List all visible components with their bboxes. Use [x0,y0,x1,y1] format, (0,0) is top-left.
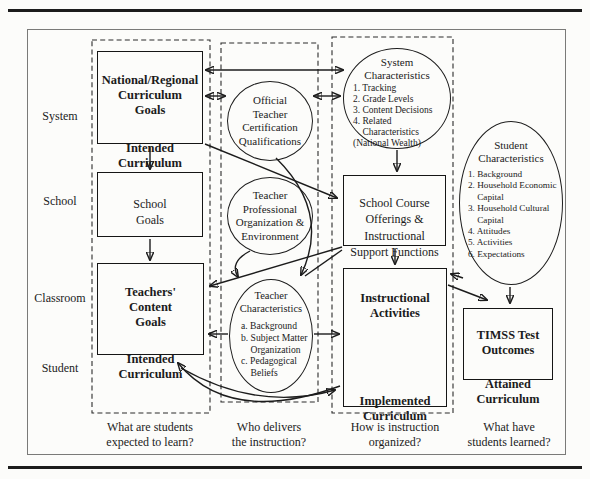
ellipse-teacher-char-title: Teacher Characteristics [230,290,312,315]
box-timss-subtitle: Attained Curriculum [464,377,552,407]
bottom-rule [8,466,582,469]
box-instructional-title: Instructional Activities [344,291,446,321]
ellipse-system-char-items: 1. Tracking 2. Grade Levels 3. Content D… [353,83,450,149]
ellipse-official-title: Official Teacher Certification Qualifica… [228,94,312,148]
box-timss-title: TIMSS Test Outcomes [464,328,552,358]
caption-what-learned: What have students learned? [454,420,564,450]
caption-who-delivers: Who delivers the instruction? [214,420,324,450]
box-timss-test-outcomes: TIMSS Test Outcomes Attained Curriculum [463,308,553,380]
ellipse-teacher-prof-title: Teacher Professional Organization & Envi… [228,189,312,243]
ellipse-teacher-characteristics: Teacher Characteristics a. Background b.… [229,279,313,393]
box-instructional-activities: Instructional Activities Implemented Cur… [343,268,447,407]
box-school-goals-title: School Goals [98,196,202,228]
box-national-title: National/Regional Curriculum Goals [98,73,202,118]
box-school-course-offerings: School Course Offerings & Instructional … [343,175,446,246]
ellipse-system-characteristics: System Characteristics 1. Tracking 2. Gr… [343,48,451,149]
ellipse-student-characteristics: Student Characteristics 1. Background 2.… [459,121,563,285]
box-teachers-subtitle: Intended Curriculum [98,352,203,382]
box-national-curriculum-goals: National/Regional Curriculum Goals Inten… [97,51,203,144]
caption-how-organized: How is instruction organized? [340,420,450,450]
box-school-goals: School Goals [97,172,203,237]
row-label-student: Student [26,361,94,375]
ellipse-system-char-title: System Characteristics [344,56,450,81]
ellipse-student-char-items: 1. Background 2. Household Economic Capi… [468,169,562,260]
ellipse-teacher-char-items: a. Background b. Subject Matter Organiza… [241,320,312,379]
box-teachers-title: Teachers' Content Goals [98,285,203,330]
figure-page: System School Classroom Student National… [0,0,590,479]
ellipse-teacher-professional-org: Teacher Professional Organization & Envi… [227,177,313,255]
row-label-classroom: Classroom [24,291,96,305]
box-national-subtitle: Intended Curriculum [98,141,202,171]
row-label-school: School [28,194,92,208]
box-teachers-content-goals: Teachers' Content Goals Intended Curricu… [97,263,204,355]
box-school-course-title: School Course Offerings & Instructional … [344,195,445,261]
caption-what-expected: What are students expected to learn? [90,420,210,450]
row-label-system: System [28,109,92,123]
top-rule [8,9,582,12]
ellipse-official-teacher-certification: Official Teacher Certification Qualifica… [227,81,313,161]
ellipse-student-char-title: Student Characteristics [460,139,562,165]
